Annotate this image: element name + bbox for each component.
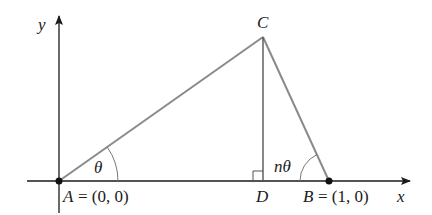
x-axis-label: x xyxy=(396,187,405,206)
edge-AC xyxy=(59,37,263,181)
label-D: D xyxy=(255,187,269,206)
label-ntheta: nθ xyxy=(274,157,291,176)
angle-arc-theta xyxy=(107,147,118,181)
angle-arc-ntheta xyxy=(300,155,317,181)
y-axis-label: y xyxy=(36,15,46,34)
point-B xyxy=(326,178,333,185)
label-theta: θ xyxy=(94,158,102,177)
point-A xyxy=(56,178,63,185)
label-A-name: A xyxy=(62,187,74,206)
triangle-diagram: y x C θ nθ A = (0, 0) D B = (1, 0) xyxy=(0,0,432,215)
label-B-name: B xyxy=(303,187,314,206)
right-angle-marker xyxy=(253,171,263,181)
label-C: C xyxy=(257,13,269,32)
edge-CB xyxy=(263,37,329,181)
label-B-coords: = (1, 0) xyxy=(318,187,369,206)
label-A-coords: = (0, 0) xyxy=(78,187,129,206)
